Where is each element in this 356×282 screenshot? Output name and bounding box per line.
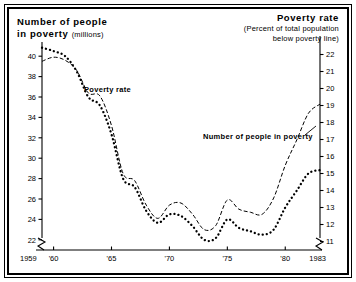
right-axis-tick-label: 21	[326, 67, 334, 76]
left-axis-tick-label: 22	[28, 236, 36, 245]
series-layer	[42, 48, 320, 241]
right-axis-tick-label: 16	[326, 152, 334, 161]
number-in-poverty-label: Number of people in poverty	[203, 132, 313, 141]
right-axis-tick-label: 19	[326, 101, 334, 110]
left-axis-tick-label: 36	[28, 93, 36, 102]
x-axis-tick-label: 1959	[20, 254, 37, 263]
left-axis-tick-label: 38	[28, 72, 36, 81]
right-axis-tick-label: 13	[326, 203, 334, 212]
right-axis-tick-label: 20	[326, 84, 334, 93]
axes-layer: 2224262830323436384011121314151617181920…	[20, 36, 334, 263]
right-axis-tick-label: 17	[326, 135, 334, 144]
right-axis-tick-label: 12	[326, 220, 334, 229]
poverty-rate-curve	[42, 48, 320, 241]
axis-break-symbol	[316, 238, 323, 250]
x-axis-tick-label: '65	[107, 254, 117, 263]
left-axis-tick-label: 30	[28, 154, 36, 163]
poverty-rate-label: Poverty rate	[84, 85, 131, 94]
labels-layer: Poverty rateNumber of people in poverty	[84, 85, 316, 141]
left-axis-tick-label: 24	[28, 215, 36, 224]
left-axis-tick-label: 28	[28, 174, 36, 183]
number-in-poverty-curve	[42, 57, 320, 230]
right-axis-tick-label: 22	[326, 50, 334, 59]
right-axis-tick-label: 14	[326, 186, 334, 195]
left-axis-tick-label: 32	[28, 134, 36, 143]
right-axis-tick-label: 15	[326, 169, 334, 178]
left-axis-tick-label: 34	[28, 113, 36, 122]
x-axis-tick-label: '60	[49, 254, 59, 263]
x-axis-tick-label: '80	[280, 254, 290, 263]
left-axis-tick-label: 40	[28, 52, 36, 61]
x-axis-tick-label: '75	[222, 254, 232, 263]
right-axis-tick-label: 18	[326, 118, 334, 127]
x-axis-tick-label: '70	[165, 254, 175, 263]
poverty-chart-figure: Number of people in poverty (millions) P…	[0, 0, 356, 282]
x-axis-tick-label: 1983	[309, 254, 326, 263]
right-axis-tick-label: 11	[326, 237, 334, 246]
left-axis-tick-label: 26	[28, 195, 36, 204]
plot-area: 2224262830323436384011121314151617181920…	[0, 0, 356, 282]
